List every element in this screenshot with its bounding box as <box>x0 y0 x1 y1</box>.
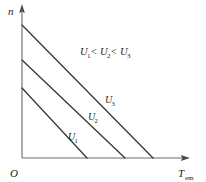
characteristic-line-u3 <box>22 25 153 158</box>
x-axis-label-group: T em <box>178 167 194 182</box>
x-axis-label-subscript: em <box>185 174 194 182</box>
inequality-operator-second: < <box>111 46 117 57</box>
inequality-operator-first: < <box>91 46 97 57</box>
curve-label-u2-subscript: 2 <box>95 117 98 124</box>
curve-label-u3-subscript: 3 <box>112 100 115 107</box>
curve-label-u1-subscript: 1 <box>75 137 78 144</box>
y-axis-label: n <box>8 5 14 17</box>
inequality-u3-subscript: 3 <box>127 52 131 60</box>
motor-characteristic-figure: n T em O U 1 < U 2 < U 3 U 3 U 2 <box>0 0 206 182</box>
x-axis-label: T <box>178 167 185 179</box>
curve-label-u2-group: U 2 <box>88 111 98 124</box>
origin-label: O <box>10 167 18 179</box>
voltage-inequality-annotation: U 1 < U 2 < U 3 <box>80 46 131 60</box>
x-axis <box>22 155 190 161</box>
curve-label-u3-group: U 3 <box>105 94 115 107</box>
characteristic-line-u1 <box>22 88 87 158</box>
plot-canvas: n T em O U 1 < U 2 < U 3 U 3 U 2 <box>0 0 206 182</box>
